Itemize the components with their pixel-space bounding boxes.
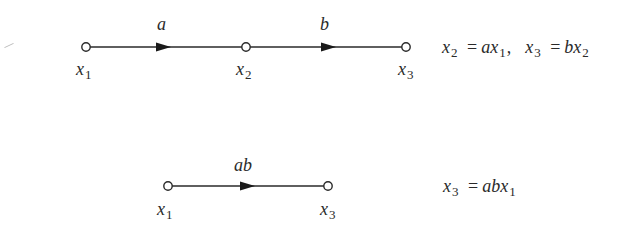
arrow-head-icon [240,182,255,191]
bottom-graph [164,182,332,191]
arrow-head-icon [321,43,336,52]
node-x3 [324,182,332,190]
node-label-x2: x2 [236,60,252,81]
node-label-x1: x1 [76,60,92,81]
signal-flow-diagram [0,0,627,240]
top-graph [82,43,410,52]
bottom-equation: x3 =abx1 [443,177,517,198]
node-x3 [402,43,410,51]
arrow-head-icon [156,43,171,52]
node-label-x3: x3 [320,200,336,221]
node-x1 [82,43,90,51]
gain-label-b: b [320,15,329,33]
gain-label-a: a [157,15,166,33]
top-equation: x2 =ax1,x3 =bx2 [442,38,590,59]
node-x1 [164,182,172,190]
node-label-x3: x3 [398,60,414,81]
node-x2 [242,43,250,51]
gain-label-ab: ab [234,156,252,174]
node-label-x1: x1 [157,200,173,221]
